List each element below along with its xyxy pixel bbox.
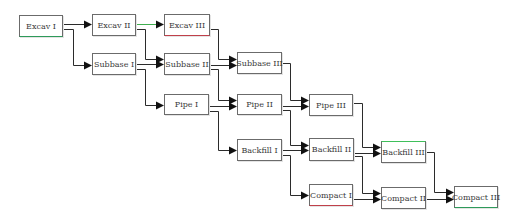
activity-label: Compact I: [310, 191, 352, 200]
activity-label: Subbase III: [236, 59, 283, 68]
connector-backfill1-to-backfill2: [283, 147, 310, 155]
arrowhead-icon: [301, 103, 309, 111]
arrowhead-icon: [229, 103, 237, 111]
arrowhead-icon: [373, 196, 381, 204]
arrowhead-icon: [301, 192, 309, 200]
connector-excav1-to-subbase1: [64, 30, 93, 70]
connector-excav3-to-subbase3: [211, 30, 238, 64]
connector-excav2-to-excav3: [137, 21, 165, 29]
connector-excav1-to-excav2: [64, 21, 93, 29]
activity-node-pipe3[interactable]: Pipe III: [309, 94, 353, 116]
activity-label: Excav II: [98, 21, 131, 30]
arrowhead-icon: [84, 62, 92, 70]
activity-label: Subbase I: [94, 60, 134, 69]
connector-backfill3-to-compact3: [427, 153, 455, 197]
activity-node-subbase3[interactable]: Subbase III: [237, 52, 282, 74]
activity-node-pipe2[interactable]: Pipe II: [237, 94, 282, 115]
connector-backfill2-to-compact2: [355, 157, 382, 198]
connector-compact2-to-compact3: [427, 196, 455, 204]
activity-node-compact2[interactable]: Compact II: [381, 187, 426, 209]
connector-compact1-to-compact2: [354, 196, 382, 204]
activity-label: Excav I: [26, 22, 56, 31]
connector-pipe3-to-backfill3: [354, 104, 382, 152]
activity-label: Backfill I: [241, 146, 277, 155]
connector-backfill1-to-compact1: [283, 156, 310, 200]
connector-pipe2-to-backfill2: [283, 111, 310, 150]
activity-node-backfill3[interactable]: Backfill III: [381, 141, 426, 163]
activity-node-backfill2[interactable]: Backfill II: [309, 138, 354, 161]
activity-label: Backfill III: [382, 148, 424, 157]
arrowhead-icon: [156, 61, 164, 69]
activity-label: Pipe III: [316, 101, 346, 110]
activity-node-compact3[interactable]: Compact III: [454, 186, 498, 208]
connector-subbase1-to-subbase2: [137, 61, 165, 69]
activity-node-subbase1[interactable]: Subbase I: [92, 53, 136, 75]
arrowhead-icon: [84, 21, 92, 29]
activity-node-excav1[interactable]: Excav I: [19, 15, 63, 37]
activity-node-subbase2[interactable]: Subbase II: [164, 53, 210, 75]
connector-subbase2-to-subbase3: [211, 62, 238, 70]
activity-node-excav3[interactable]: Excav III: [164, 14, 210, 36]
arrowhead-icon: [301, 147, 309, 155]
connector-subbase3-to-pipe3: [283, 64, 310, 105]
connector-pipe1-to-pipe2: [210, 103, 238, 111]
arrowhead-icon: [156, 102, 164, 110]
activity-label: Compact III: [452, 193, 500, 202]
activity-node-backfill1[interactable]: Backfill I: [237, 139, 282, 161]
activity-node-pipe1[interactable]: Pipe I: [164, 94, 209, 115]
connector-pipe1-to-backfill1: [210, 112, 238, 155]
activity-label: Excav III: [169, 21, 205, 30]
connector-excav2-to-subbase2: [137, 30, 165, 64]
connector-subbase2-to-pipe2: [211, 70, 238, 105]
precedence-diagram: Excav I Excav II Excav III Subbase I Sub…: [0, 0, 514, 223]
activity-node-excav2[interactable]: Excav II: [92, 14, 136, 36]
activity-label: Backfill II: [312, 145, 351, 154]
activity-label: Pipe II: [246, 100, 273, 109]
arrowhead-icon: [229, 147, 237, 155]
activity-label: Compact II: [381, 194, 426, 203]
activity-label: Pipe I: [175, 100, 199, 109]
arrowhead-icon: [373, 150, 381, 158]
connector-subbase1-to-pipe1: [137, 70, 165, 110]
connector-pipe2-to-pipe3: [283, 103, 310, 111]
activity-node-compact1[interactable]: Compact I: [309, 184, 353, 206]
arrowhead-icon: [156, 21, 164, 29]
activity-label: Subbase II: [165, 60, 208, 69]
